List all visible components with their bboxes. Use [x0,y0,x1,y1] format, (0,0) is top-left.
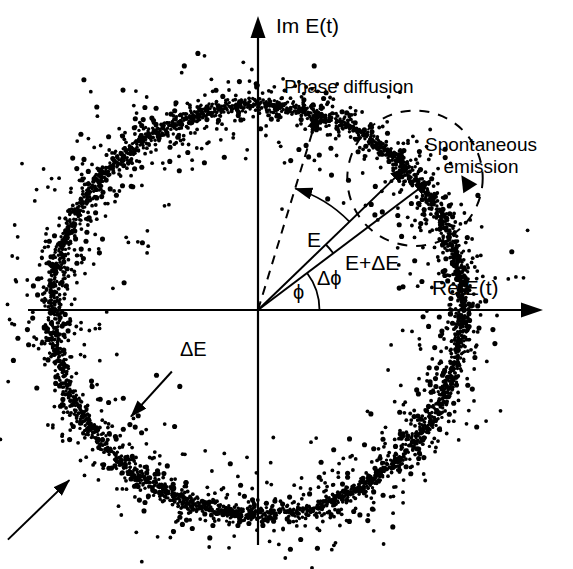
label-phi: ϕ [293,281,304,305]
figure-canvas: Im E(t) Re E(t) Phase diffusion Spontane… [0,0,573,569]
unlabeled-callout-arrow [8,480,70,539]
axis-label-imaginary: Im E(t) [276,14,339,39]
label-field-vector-E: E [307,228,321,253]
annotation-spontaneous-emission: Spontaneousemission [425,134,537,179]
axis-label-real: Re E(t) [432,276,499,301]
axis-horizontal-arrowhead [521,303,543,318]
angle-arc-delta-phi [326,245,334,254]
label-delta-E: ΔE [180,338,207,362]
label-delta-phi: Δϕ [317,267,342,291]
annotation-spontaneous-emission-line1: Spontaneous [425,134,537,155]
axis-vertical-arrowhead [251,16,266,38]
annotation-spontaneous-emission-line2: emission [444,156,519,177]
dE-callout-arrow [131,372,172,417]
annotation-phase-diffusion: Phase diffusion [284,76,414,98]
angle-arc-phase-diffusion [295,189,349,222]
label-field-vector-E-plus-delta-E: E+ΔE [345,251,399,276]
